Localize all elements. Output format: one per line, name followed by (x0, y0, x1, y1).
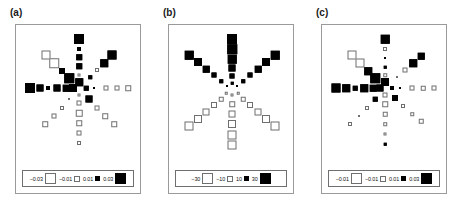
data-square (383, 112, 388, 117)
panel-b: (b) −30−101030 (153, 0, 306, 208)
data-square (421, 86, 426, 91)
legend-item: −30 (191, 173, 213, 184)
legend-item: 0.01 (389, 176, 406, 182)
plot-frame-a: −0.03−0.010.010.03 (15, 24, 141, 194)
data-square (342, 84, 350, 92)
figure-container: (a) −0.03−0.010.010.03 (b) −30−101030 (c… (0, 0, 459, 208)
data-square (77, 47, 81, 51)
data-square (231, 94, 234, 97)
data-square (348, 122, 352, 126)
legend-label: −0.01 (59, 176, 72, 182)
data-square (37, 85, 44, 92)
star-plot-c (322, 25, 446, 151)
data-square (383, 93, 388, 98)
data-square (401, 104, 405, 108)
panel-c: (c) −0.01−0.010.010.03 (306, 0, 459, 208)
data-square (419, 119, 424, 124)
legend-swatch (227, 176, 233, 182)
data-square (392, 95, 398, 101)
data-square (194, 58, 202, 66)
data-square (104, 86, 109, 91)
legend-item: −10 (216, 176, 233, 182)
legend-item: 0.01 (83, 176, 100, 182)
plot-frame-c: −0.01−0.010.010.03 (321, 24, 447, 194)
data-square (271, 51, 280, 60)
data-square (60, 106, 64, 110)
data-square (227, 44, 237, 54)
data-square (111, 121, 117, 127)
data-square (262, 115, 270, 123)
legend-swatch (401, 176, 406, 181)
data-square (383, 47, 387, 51)
data-square (271, 122, 280, 131)
legend-swatch (380, 176, 386, 182)
data-square (403, 68, 408, 73)
data-square (54, 85, 61, 92)
data-square (69, 84, 77, 92)
data-square (229, 111, 236, 118)
data-square (230, 74, 235, 79)
panel-label-a: (a) (10, 7, 22, 19)
legend-label: −0.01 (365, 176, 378, 182)
data-square (84, 86, 89, 91)
legend-item: 10 (236, 176, 249, 182)
legend-a: −0.03−0.010.010.03 (22, 170, 134, 187)
data-square (74, 34, 84, 44)
data-square (77, 101, 82, 106)
data-square (185, 122, 194, 131)
data-square (255, 66, 262, 73)
data-square (384, 57, 386, 59)
data-square (377, 85, 384, 92)
data-square (64, 73, 74, 83)
data-square (88, 75, 92, 79)
data-square (228, 55, 237, 64)
data-square (353, 86, 358, 91)
data-square (228, 120, 236, 128)
data-square (52, 114, 57, 119)
data-square (356, 59, 365, 68)
data-square (108, 51, 117, 60)
data-square (228, 131, 237, 140)
data-square (396, 76, 398, 78)
data-square (203, 109, 210, 116)
data-square (225, 92, 228, 95)
legend-b: −30−101030 (175, 170, 287, 187)
legend-label: 0.03 (103, 176, 113, 182)
data-square (77, 131, 82, 136)
data-square (370, 85, 377, 92)
legend-swatch (260, 173, 271, 184)
data-square (95, 68, 99, 72)
data-square (76, 120, 82, 126)
plot-frame-b: −30−101030 (168, 24, 294, 194)
data-square (185, 51, 194, 60)
data-square (77, 141, 81, 145)
legend-item: 30 (252, 173, 271, 184)
legend-item: −0.03 (30, 173, 56, 184)
data-square (76, 110, 83, 117)
data-square (228, 141, 237, 150)
legend-c: −0.01−0.010.010.03 (328, 170, 440, 187)
data-square (219, 97, 224, 102)
legend-swatch (95, 176, 100, 181)
legend-item: −0.01 (336, 173, 362, 184)
data-square (219, 79, 223, 83)
legend-item: 0.03 (103, 173, 126, 184)
legend-label: −10 (216, 176, 225, 182)
data-square (93, 87, 95, 89)
data-square (382, 101, 388, 107)
data-square (241, 97, 246, 102)
data-square (418, 53, 425, 60)
data-square (100, 59, 108, 67)
data-square (86, 96, 93, 103)
data-square (68, 98, 70, 100)
data-square (42, 121, 48, 127)
data-square (49, 58, 59, 68)
legend-swatch (74, 176, 80, 182)
data-square (370, 73, 380, 83)
data-square (76, 63, 82, 69)
star-plot-b (169, 25, 293, 151)
data-square (78, 74, 81, 77)
data-square (390, 86, 394, 90)
legend-swatch (244, 176, 249, 181)
data-square (381, 35, 390, 44)
